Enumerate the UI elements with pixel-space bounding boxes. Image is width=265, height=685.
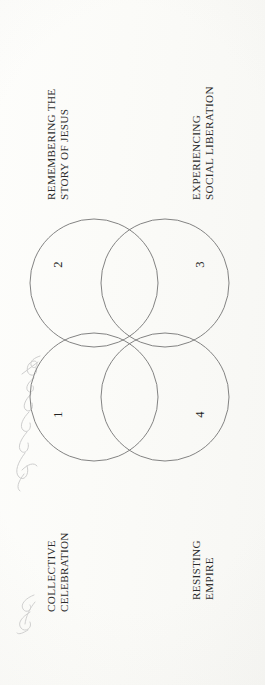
region-number-2: 2 [51, 257, 66, 273]
label-collective-celebration: COLLECTIVE CELEBRATION [45, 532, 71, 612]
label-remembering-line1: REMEMBERING THE [45, 88, 58, 200]
region-number-1: 1 [51, 407, 66, 423]
region-number-4: 4 [193, 407, 208, 423]
label-experiencing-social-liberation: EXPERIENCING SOCIAL LIBERATION [190, 86, 216, 200]
label-remembering-line2: STORY OF JESUS [58, 88, 71, 200]
label-experiencing-line2: SOCIAL LIBERATION [203, 86, 216, 200]
venn-circle-remembering [30, 219, 158, 347]
region-number-3: 3 [193, 257, 208, 273]
venn-circle-experiencing [101, 219, 229, 347]
label-resisting-line1: RESISTING [190, 540, 203, 600]
scanned-page: 2 3 1 4 REMEMBERING THE STORY OF JESUS E… [0, 0, 265, 685]
label-collective-line2: CELEBRATION [58, 532, 71, 612]
venn-circle-collective [30, 333, 158, 461]
venn-diagram [0, 0, 265, 685]
label-resisting-line2: EMPIRE [203, 540, 216, 600]
label-experiencing-line1: EXPERIENCING [190, 86, 203, 200]
label-collective-line1: COLLECTIVE [45, 532, 58, 612]
label-resisting-empire: RESISTING EMPIRE [190, 540, 216, 600]
venn-circle-resisting [101, 333, 229, 461]
label-remembering-the-story-of-jesus: REMEMBERING THE STORY OF JESUS [45, 88, 71, 200]
